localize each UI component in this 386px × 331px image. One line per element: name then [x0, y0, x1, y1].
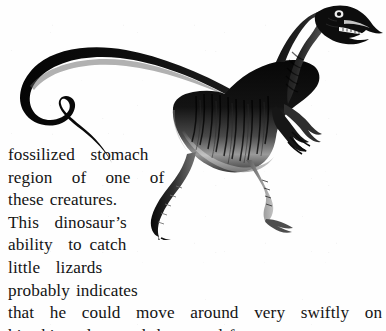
dinosaur-far-arm — [284, 104, 322, 142]
dinosaur-eye — [335, 10, 344, 18]
caption-line-6: little lizards — [0, 257, 178, 280]
caption-text-block: fossilized stomach region of one of thes… — [0, 144, 386, 331]
dinosaur-neck — [276, 11, 329, 104]
teeth — [343, 28, 359, 34]
caption-line-8: that he could move around very swiftly o… — [0, 302, 386, 325]
caption-line-3: these creatures. — [0, 189, 178, 212]
caption-line-7: probably indicates — [0, 280, 178, 303]
caption-line-2: region of one of — [0, 167, 178, 190]
caption-line-9: his skinny legs and three-toed feet. — [0, 325, 386, 331]
dinosaur-head — [315, 5, 383, 44]
caption-line-1: fossilized stomach — [0, 144, 178, 167]
caption-line-5: ability to catch — [0, 234, 178, 257]
book-page: fossilized stomach region of one of thes… — [0, 0, 386, 331]
caption-line-4: This dinosaur’s — [0, 212, 178, 235]
